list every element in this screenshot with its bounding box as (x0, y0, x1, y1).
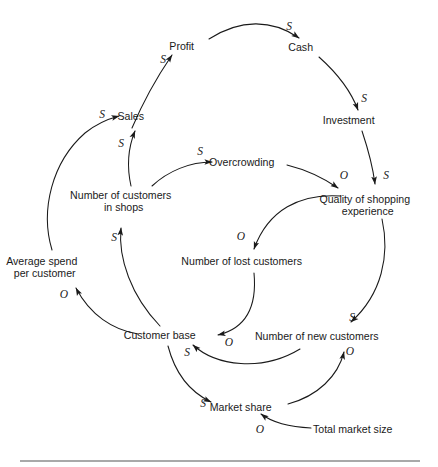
node-total-market-size[interactable]: Total market size (0, 0, 413, 435)
link-customers-in-shops-overcrowding (152, 162, 212, 186)
polarity-label-group: S S S S S S S O O S O S S O S O O (60, 20, 389, 435)
link-customer-base-customers-in-shops (121, 228, 160, 326)
polarity-customer-base-market-share: S (200, 397, 206, 409)
node-profit-line-0: Profit (169, 40, 194, 52)
polarity-lost-customers-customer-base: O (225, 336, 234, 348)
polarity-market-share-new-customers: O (346, 345, 355, 357)
link-avg-spend-sales (47, 116, 119, 250)
node-overcrowding-line-0: Overcrowding (209, 156, 274, 168)
causal-loop-diagram: Profit Cash Investment Sales Overcrowdin… (0, 0, 438, 467)
diagram-canvas: Profit Cash Investment Sales Overcrowdin… (0, 0, 438, 467)
node-sales[interactable]: Sales (0, 0, 165, 122)
polarity-profit-cash: S (286, 20, 292, 32)
node-total-market-size-line-0: Total market size (313, 423, 393, 435)
polarity-customers-in-shops-overcrowding: S (197, 145, 203, 157)
link-investment-quality (362, 131, 375, 184)
node-quality-line-0: Quality of shopping (319, 193, 410, 205)
polarity-total-market-size-market-share: O (256, 423, 265, 435)
node-investment-line-0: Investment (323, 114, 375, 126)
polarity-cash-investment: S (361, 92, 367, 104)
node-label-group: Profit Cash Investment Sales Overcrowdin… (0, 0, 437, 435)
polarity-quality-new-customers: S (349, 311, 355, 323)
node-overcrowding[interactable]: Overcrowding (0, 0, 295, 168)
node-market-share-line-0: Market share (210, 401, 272, 413)
polarity-customers-in-shops-sales: S (118, 137, 124, 149)
node-quality-of-shopping-experience[interactable]: Quality of shopping experience (0, 0, 437, 217)
link-overcrowding-quality (287, 165, 338, 188)
polarity-quality-lost-customers: O (237, 230, 246, 242)
polarity-overcrowding-quality: O (340, 169, 349, 181)
link-new-customers-customer-base (193, 345, 300, 364)
link-group (47, 24, 384, 428)
polarity-customer-base-avg-spend: O (60, 288, 69, 300)
node-customers-in-shops-line-0: Number of customers (70, 189, 171, 201)
polarity-new-customers-customer-base: S (184, 346, 190, 358)
link-quality-new-customers (351, 219, 385, 322)
polarity-sales-profit: S (160, 53, 166, 65)
node-customer-base-line-0: Customer base (124, 329, 196, 341)
node-quality-line-1: experience (342, 205, 394, 217)
link-market-share-new-customers (288, 352, 344, 404)
polarity-investment-quality: S (383, 169, 389, 181)
link-lost-customers-customer-base (218, 273, 255, 335)
node-new-customers-line-0: Number of new customers (255, 330, 379, 342)
node-investment[interactable]: Investment (0, 0, 395, 126)
node-avg-spend-line-1: per customer (14, 267, 76, 279)
link-total-market-size-market-share (261, 414, 311, 428)
node-profit[interactable]: Profit (0, 0, 215, 52)
node-avg-spend-line-0: Average spend (6, 255, 77, 267)
link-customer-base-avg-spend (76, 288, 138, 334)
node-cash-line-0: Cash (288, 41, 313, 53)
node-number-of-lost-customers[interactable]: Number of lost customers (0, 0, 323, 267)
node-average-spend-per-customer[interactable]: Average spend per customer (0, 0, 104, 279)
link-cash-investment (319, 57, 358, 110)
link-customers-in-shops-sales (129, 131, 135, 186)
polarity-avg-spend-sales: S (99, 108, 105, 120)
node-sales-line-0: Sales (117, 110, 144, 122)
node-cash[interactable]: Cash (0, 0, 334, 53)
polarity-customer-base-customers-in-shops: S (111, 231, 117, 243)
node-number-of-customers-in-shops[interactable]: Number of customers in shops (0, 0, 198, 213)
node-lost-customers-line-0: Number of lost customers (181, 255, 302, 267)
node-customers-in-shops-line-1: in shops (104, 201, 143, 213)
